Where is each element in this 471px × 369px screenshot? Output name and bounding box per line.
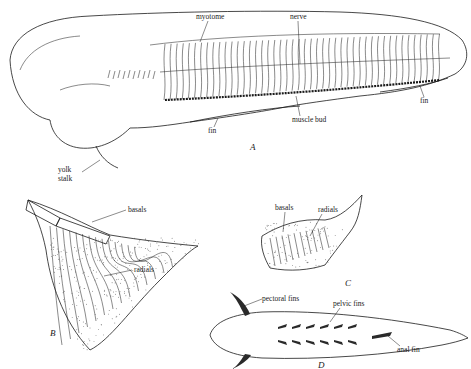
stipple-dot [141, 247, 142, 248]
stipple-dot [120, 283, 121, 284]
stipple-dot [319, 265, 320, 266]
myotome-segment [439, 34, 440, 80]
myotome-segment [286, 40, 287, 92]
stipple-dot [123, 258, 124, 259]
gill-slits [108, 70, 155, 79]
panel-a-label: A [249, 142, 256, 152]
myotome-segment [402, 35, 403, 82]
stipple-dot [147, 249, 148, 250]
panel-d: pectoral fins pelvic fins anal fin D [210, 292, 468, 369]
stipple-dot [53, 247, 54, 248]
stipple-dot [74, 247, 75, 248]
label-fin-ventral: fin [208, 126, 217, 135]
stipple-dot [131, 300, 132, 301]
stipple-dot [132, 253, 133, 254]
stipple-dot [174, 241, 175, 242]
gill-slit [153, 71, 155, 79]
fin-c-radials [270, 227, 329, 266]
stipple-dot [139, 241, 140, 242]
stipple-dot [69, 308, 70, 309]
stipple-dot [116, 317, 117, 318]
stipple-dot [145, 289, 146, 290]
stipple-dot [129, 298, 130, 299]
leader-pelvic-fins [330, 308, 340, 322]
stipple-dot [136, 278, 137, 279]
stipple-dot [129, 265, 130, 266]
stipple-dot [139, 240, 140, 241]
stipple-dot [265, 228, 266, 229]
stipple-dot [113, 292, 114, 293]
stipple-dot [83, 345, 84, 346]
stipple-dot [144, 256, 145, 257]
myotome-segment [414, 35, 415, 82]
stipple-dot [53, 249, 54, 250]
stipple-dot [51, 256, 52, 257]
leader-pectoral-fins [244, 299, 262, 306]
gill-slit [118, 70, 120, 78]
stipple-dot [61, 256, 62, 257]
stipple-dot [311, 240, 312, 241]
stipple-dot [96, 272, 97, 273]
stipple-dot [58, 259, 59, 260]
stipple-dot [130, 252, 131, 253]
myotome-segment [182, 43, 183, 98]
stipple-dot [116, 279, 117, 280]
stipple-dot [107, 296, 108, 297]
stipple-dot [83, 348, 84, 349]
stipple-dot [76, 329, 77, 330]
stipple-dot [307, 253, 308, 254]
stipple-dot [310, 222, 311, 223]
stipple-dot [275, 251, 276, 252]
stipple-dot [268, 253, 269, 254]
stipple-dot [95, 305, 96, 306]
stipple-dot [118, 241, 119, 242]
gill-slit [143, 71, 145, 79]
radial-ray [306, 231, 311, 254]
stipple-dot [62, 265, 63, 266]
stipple-dot [58, 269, 59, 270]
stipple-dot [55, 268, 56, 269]
label-pectoral-fins: pectoral fins [262, 294, 299, 303]
stipple-dot [93, 270, 94, 271]
stipple-dot [144, 277, 145, 278]
stipple-dot [314, 267, 315, 268]
gill-contour [60, 84, 110, 90]
stipple-dot [336, 246, 337, 247]
stipple-dot [305, 260, 306, 261]
stipple-dot [131, 255, 132, 256]
stipple-dot [134, 238, 135, 239]
stipple-dot [112, 282, 113, 283]
label-b-radials: radials [134, 265, 154, 274]
stipple-dot [116, 291, 117, 292]
stipple-dot [78, 295, 79, 296]
stipple-dot [172, 238, 173, 239]
basal-rod-1 [26, 200, 60, 226]
stipple-dot [280, 247, 281, 248]
stipple-dot [107, 243, 108, 244]
stipple-dot [69, 266, 70, 267]
leader-anal-fin [388, 336, 400, 346]
gill-slit [133, 71, 135, 79]
pelvic-fin-lower [306, 340, 315, 345]
stipple-dot [305, 248, 306, 249]
stipple-dot [148, 241, 149, 242]
stipple-dot [76, 265, 77, 266]
stipple-dot [59, 283, 60, 284]
stipple-dot [289, 225, 290, 226]
stipple-dot [180, 245, 181, 246]
stipple-dot [117, 260, 118, 261]
stipple-dot [97, 318, 98, 319]
stipple-dot [307, 262, 308, 263]
stipple-dot [94, 341, 95, 342]
gill-slit [113, 71, 115, 79]
myotome-segment [213, 42, 214, 96]
stipple-dot [76, 305, 77, 306]
stipple-dot [99, 260, 100, 261]
stipple-dot [78, 250, 79, 251]
stipple-dot [139, 247, 140, 248]
stipple-dot [162, 240, 163, 241]
stipple-dot [111, 257, 112, 258]
stipple-dot [86, 304, 87, 305]
gill-slit [148, 70, 150, 78]
myotome-segment [274, 40, 275, 92]
